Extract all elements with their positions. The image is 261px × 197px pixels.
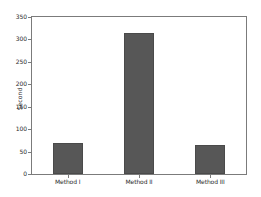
y-axis-tick-label: 200	[16, 81, 27, 87]
plot-area: 050100150200250300350 Method IMethod IIM…	[31, 16, 247, 175]
bar	[124, 33, 154, 174]
y-axis-tick-label: 150	[16, 104, 27, 110]
y-axis-tick-label: 350	[16, 14, 27, 20]
y-axis-tick-label: 250	[16, 59, 27, 65]
y-axis-tick-label: 300	[16, 36, 27, 42]
y-axis-tick-label: 50	[20, 149, 27, 155]
bars-layer	[32, 17, 246, 174]
bar	[195, 145, 225, 174]
bar	[53, 143, 83, 174]
x-axis-tick-label: Method II	[125, 178, 152, 185]
y-axis-tick-label: 0	[23, 171, 27, 177]
y-axis-tick-mark	[28, 174, 32, 175]
bar-chart-figure: Second 050100150200250300350 Method IMet…	[0, 0, 261, 197]
x-axis-tick-label: Method I	[55, 178, 80, 185]
x-axis-tick-label: Method III	[196, 178, 225, 185]
y-axis-tick-label: 100	[16, 126, 27, 132]
